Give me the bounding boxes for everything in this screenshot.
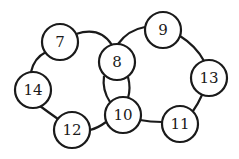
edge-10-8-right	[128, 77, 130, 98]
node-label: 8	[112, 53, 122, 71]
node-label: 7	[55, 33, 65, 51]
edge-12-14	[40, 106, 58, 119]
node-13: 13	[191, 60, 227, 96]
node-7: 7	[42, 24, 78, 60]
edge-14-7	[31, 52, 46, 72]
edge-9-13	[180, 36, 204, 61]
edge-8-9	[118, 27, 145, 44]
edge-10-12	[90, 122, 106, 130]
ring-diagram: 7 8 9 13 11 10 12 14	[0, 0, 239, 159]
node-12: 12	[54, 112, 90, 148]
node-label: 10	[113, 106, 132, 124]
node-label: 9	[158, 21, 168, 39]
node-11: 11	[162, 106, 198, 142]
node-9: 9	[145, 12, 181, 48]
node-label: 12	[62, 121, 81, 139]
edge-8-10-left	[104, 76, 110, 102]
edge-7-8	[76, 32, 112, 45]
node-label: 13	[199, 69, 218, 87]
edge-11-10	[140, 120, 162, 122]
node-8: 8	[99, 44, 135, 80]
node-14: 14	[15, 72, 51, 108]
node-label: 11	[170, 115, 189, 133]
node-label: 14	[23, 81, 42, 99]
edge-13-11	[193, 95, 202, 111]
node-10: 10	[105, 97, 141, 133]
